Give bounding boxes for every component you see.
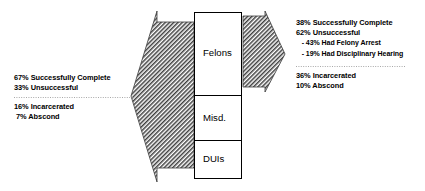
right-unsuccessful-line: 62% Unsuccessful <box>296 28 403 38</box>
left-outcomes-top-group: 67% Successfully Complete 33% Unsuccessf… <box>14 73 111 93</box>
right-felony-arrest-line: - 43% Had Felony Arrest <box>296 38 403 48</box>
category-label-felons: Felons <box>203 47 232 58</box>
category-label-duis: DUIs <box>203 153 224 164</box>
right-pointing-hatched-arrow <box>243 11 285 92</box>
right-abscond-line: 10% Abscond <box>296 81 356 91</box>
right-incarcerated-line: 36% Incarcerated <box>296 71 356 81</box>
left-success-line: 67% Successfully Complete <box>14 73 111 83</box>
left-unsuccessful-line: 33% Unsuccessful <box>14 83 111 93</box>
left-abscond-line: 7% Abscond <box>14 112 74 122</box>
right-success-line: 38% Successfully Complete <box>296 18 403 28</box>
diagram-canvas: 67% Successfully Complete 33% Unsuccessf… <box>0 0 425 191</box>
category-label-misd: Misd. <box>203 112 226 123</box>
left-incarcerated-line: 16% Incarcerated <box>14 102 74 112</box>
right-outcomes-bottom-group: 36% Incarcerated 10% Abscond <box>296 71 356 91</box>
left-pointing-hatched-arrow <box>131 11 194 182</box>
right-outcomes-top-group: 38% Successfully Complete 62% Unsuccessf… <box>296 18 403 59</box>
left-outcomes-bottom-group: 16% Incarcerated 7% Abscond <box>14 102 74 122</box>
right-disciplinary-hearing-line: - 19% Had Disciplinary Hearing <box>296 49 403 59</box>
